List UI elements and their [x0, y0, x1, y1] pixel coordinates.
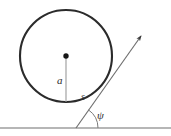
geometry-figure: a s ψ: [0, 0, 171, 136]
circle-center-dot: [63, 53, 68, 58]
arc-length-label: s: [81, 92, 85, 102]
tangent-ray: [76, 36, 141, 128]
figure-canvas: [0, 0, 171, 136]
angle-label: ψ: [97, 110, 104, 121]
radius-label: a: [57, 75, 63, 86]
